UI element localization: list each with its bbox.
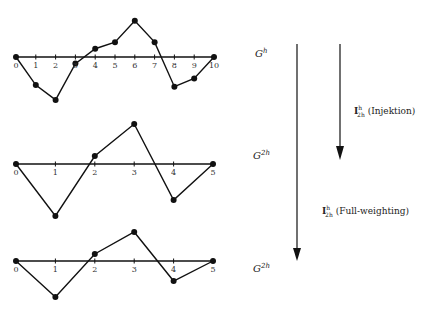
tick-label: 5 <box>112 61 117 70</box>
data-point <box>53 97 59 103</box>
tick-label: 1 <box>53 168 58 177</box>
tick-label: 10 <box>209 61 219 70</box>
tick-label: 0 <box>13 265 18 274</box>
data-point <box>152 39 158 45</box>
data-point <box>92 46 98 52</box>
data-point <box>92 251 98 257</box>
injection-arrow-head <box>336 146 344 160</box>
tick-label: 0 <box>13 61 18 70</box>
data-point <box>13 258 19 264</box>
data-point <box>171 197 177 203</box>
grid-label-coarse-1: G2h <box>253 149 270 161</box>
data-point <box>112 39 118 45</box>
data-line <box>16 124 213 216</box>
full-weighting-arrow-head <box>293 248 301 261</box>
tick-label: 2 <box>53 61 58 70</box>
multigrid-diagram: 012345678910012345012345 <box>0 0 431 310</box>
data-point <box>191 75 197 81</box>
data-point <box>210 258 216 264</box>
tick-label: 0 <box>13 168 18 177</box>
tick-label: 3 <box>132 168 137 177</box>
tick-label: 1 <box>33 61 38 70</box>
data-point <box>171 84 177 90</box>
data-point <box>131 121 137 127</box>
data-point <box>131 229 137 235</box>
data-line <box>16 232 213 297</box>
data-point <box>13 161 19 167</box>
injection-plot <box>13 121 216 219</box>
data-point <box>33 82 39 88</box>
tick-label: 1 <box>53 265 58 274</box>
tick-label: 7 <box>152 61 157 70</box>
grid-label-fine: Gh <box>255 47 268 59</box>
tick-label: 5 <box>210 265 215 274</box>
grid-label-coarse-2: G2h <box>253 262 270 274</box>
full-weighting-plot <box>13 229 216 300</box>
tick-label: 4 <box>171 168 176 177</box>
data-point <box>52 294 58 300</box>
data-point <box>210 161 216 167</box>
tick-label: 6 <box>132 61 137 70</box>
data-point <box>171 278 177 284</box>
tick-label: 2 <box>92 168 97 177</box>
data-point <box>13 54 19 60</box>
data-point <box>132 18 138 24</box>
tick-label: 3 <box>132 265 137 274</box>
tick-label: 9 <box>192 61 197 70</box>
data-point <box>52 213 58 219</box>
tick-label: 8 <box>172 61 177 70</box>
injection-label: Ih2h (Injektion) <box>354 104 415 118</box>
full-weighting-label: Ih2h (Full-weighting) <box>322 204 409 218</box>
data-point <box>211 54 217 60</box>
tick-label: 4 <box>93 61 98 70</box>
tick-label: 3 <box>73 61 78 70</box>
data-point <box>92 153 98 159</box>
tick-label: 2 <box>92 265 97 274</box>
tick-label: 5 <box>210 168 215 177</box>
tick-label: 4 <box>171 265 176 274</box>
